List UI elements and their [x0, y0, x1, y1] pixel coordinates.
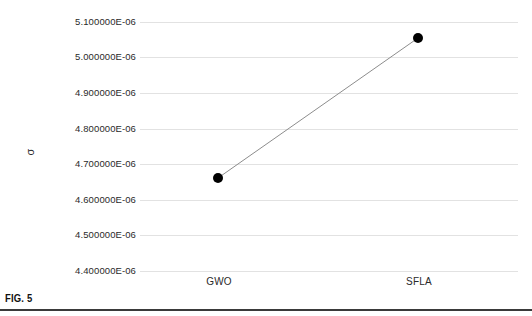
data-series-svg — [0, 0, 532, 292]
figure-root: 5.100000E-06 5.000000E-06 4.900000E-06 4… — [0, 0, 532, 316]
series-line — [218, 38, 418, 178]
x-tick-label-gwo: GWO — [206, 276, 232, 287]
data-point-gwo[interactable] — [213, 173, 223, 183]
chart-plot-area: 5.100000E-06 5.000000E-06 4.900000E-06 4… — [0, 0, 532, 292]
figure-caption-block: FIG. 5 — [0, 292, 532, 316]
caption-divider — [0, 309, 532, 311]
x-tick-label-sfla: SFLA — [406, 276, 432, 287]
figure-caption: FIG. 5 — [5, 292, 32, 304]
data-point-sfla[interactable] — [413, 33, 423, 43]
